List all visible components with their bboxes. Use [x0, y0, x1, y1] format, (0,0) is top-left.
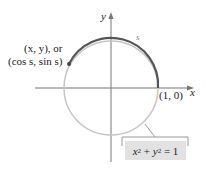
callout-line: [145, 124, 155, 137]
y-axis-arrow: [109, 12, 114, 19]
equation-y: y: [153, 145, 158, 157]
x-axis-label: x: [190, 86, 195, 99]
point-label-line2: (cos s, sin s): [8, 55, 62, 68]
point-label-line1: (x, y), or: [24, 42, 63, 55]
equation-x: x: [133, 145, 138, 157]
point-marker: [67, 62, 71, 66]
equation-box: x2 + y2 = 1: [125, 141, 186, 160]
arc-s: [69, 38, 158, 88]
arc-label: s: [136, 31, 140, 44]
intercept-label: (1, 0): [159, 89, 183, 102]
equation-rhs: 1: [173, 145, 179, 157]
y-axis-label: y: [101, 10, 106, 23]
